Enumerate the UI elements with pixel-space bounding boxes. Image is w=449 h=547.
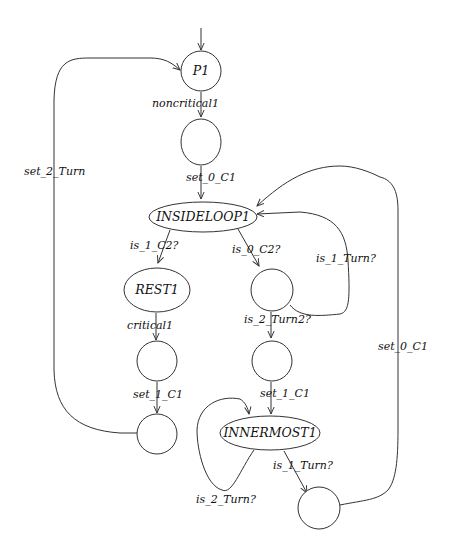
node-s-after-is2turn2: [252, 341, 292, 381]
edge-label-is-0-c2: is_0_C2?: [232, 243, 281, 256]
edge-label-noncritical1: noncritical1: [152, 97, 219, 110]
node-insideloop1: INSIDELOOP1: [149, 202, 257, 232]
node-label-insideloop1: INSIDELOOP1: [155, 209, 250, 224]
edge-is-1-turn: [284, 451, 307, 493]
node-label-rest1: REST1: [134, 282, 178, 297]
edge-label-is-1-turn: is_1_Turn?: [273, 459, 333, 472]
node-s-after-set1: [137, 414, 177, 454]
node-label-p1: P1: [192, 63, 209, 78]
edge-label-is-1-c2: is_1_C2?: [130, 239, 179, 252]
node-innermost1: INNERMOST1: [220, 416, 320, 450]
node-label-innermost1: INNERMOST1: [222, 425, 316, 440]
node-rest1: REST1: [124, 268, 190, 312]
edge-set-0-c1-b: [257, 166, 398, 505]
state-diagram: noncritical1 set_0_C1 is_1_C2? is_0_C2? …: [0, 0, 449, 547]
edge-label-set-1-c1-a: set_1_C1: [133, 388, 183, 401]
edge-label-is-2-turn-loop: is_2_Turn?: [196, 493, 256, 506]
edge-label-critical1: critical1: [127, 319, 173, 332]
edge-label-is-1-turn-loop: is_1_Turn?: [316, 252, 376, 265]
node-p1: P1: [181, 51, 221, 91]
node-s-after-noncritical: [181, 119, 221, 165]
edge-label-is-2-turn2: is_2_Turn2?: [244, 313, 311, 326]
node-s-after-is0c2: [251, 269, 293, 311]
edge-label-set-0-c1-a: set_0_C1: [186, 171, 236, 184]
node-s-after-critical: [137, 341, 177, 381]
edge-label-set-1-c1-b: set_1_C1: [260, 387, 310, 400]
edge-label-set-2-turn: set_2_Turn: [24, 165, 85, 178]
node-s-after-is1turn: [298, 487, 340, 529]
edge-label-set-0-c1-b: set_0_C1: [378, 340, 428, 353]
